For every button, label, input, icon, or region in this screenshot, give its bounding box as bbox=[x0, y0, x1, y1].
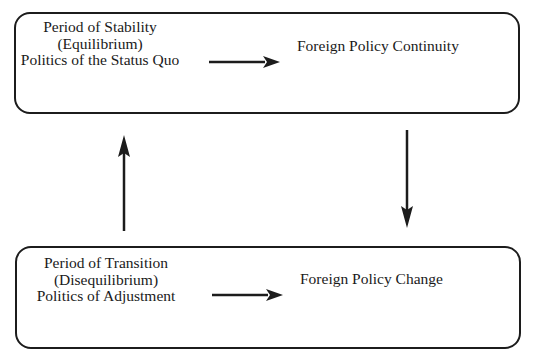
continuity-outcome-label: Foreign Policy Continuity bbox=[297, 37, 459, 55]
down-arrow-icon bbox=[401, 130, 413, 228]
stability-subtitle: (Equilibrium) bbox=[14, 36, 186, 53]
transition-state-label: Period of Transition (Disequilibrium) Po… bbox=[26, 255, 186, 305]
transition-politics: Politics of Adjustment bbox=[26, 288, 186, 305]
stability-state-label: Period of Stability (Equilibrium) Politi… bbox=[14, 19, 186, 69]
transition-title: Period of Transition bbox=[26, 255, 186, 272]
up-arrow-icon bbox=[118, 135, 130, 231]
stability-politics: Politics of the Status Quo bbox=[14, 52, 186, 69]
stability-title: Period of Stability bbox=[14, 19, 186, 36]
transition-subtitle: (Disequilibrium) bbox=[26, 272, 186, 289]
change-outcome-label: Foreign Policy Change bbox=[300, 270, 443, 288]
